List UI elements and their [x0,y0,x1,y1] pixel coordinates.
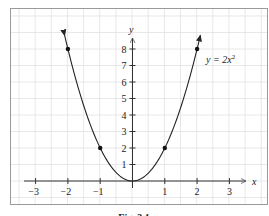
data-point [195,47,199,51]
y-tick-label: 6 [122,77,127,88]
y-tick-label: 7 [122,60,127,71]
x-tick-label: 1 [162,186,167,197]
x-axis-label: x [251,176,257,187]
y-tick-label: 1 [122,159,127,170]
figure-caption: Fig. 3.1 [118,212,149,216]
y-tick-label: 5 [122,93,127,104]
x-tick-label: −2 [61,186,72,197]
y-tick-label: 3 [122,126,127,137]
y-tick-label: 4 [122,110,127,121]
data-point [66,47,70,51]
x-tick-label: 3 [227,186,232,197]
data-point [98,146,102,150]
equation-exponent: 2 [232,53,236,61]
y-tick-label: 8 [122,44,127,55]
chart: −3−2−112312345678 x y y = 2x2 Fig. 3.1 [0,0,269,216]
equation-label: y = 2x2 [205,53,236,65]
x-tick-label: −3 [28,186,39,197]
y-tick-label: 2 [122,143,127,154]
x-tick-label: −1 [93,186,104,197]
y-axis-label: y [128,24,134,35]
x-tick-label: 2 [195,186,200,197]
data-point [163,146,167,150]
equation-text: y = 2x [205,54,232,65]
